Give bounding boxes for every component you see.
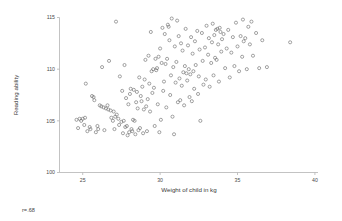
data-point	[212, 74, 215, 77]
correlation-annotation: r=.68	[22, 207, 35, 213]
data-point	[110, 116, 113, 119]
data-point	[125, 97, 128, 100]
data-point	[176, 19, 179, 22]
data-point	[236, 45, 239, 48]
data-point	[140, 100, 143, 103]
data-point	[171, 115, 174, 118]
data-point	[187, 68, 190, 71]
data-point	[241, 55, 244, 58]
data-point	[129, 87, 132, 90]
data-point	[220, 38, 223, 41]
y-axis-group: 100105110115 Reading ability	[12, 14, 60, 175]
data-point	[159, 118, 162, 121]
data-point	[103, 129, 106, 132]
data-point	[225, 47, 228, 50]
x-axis-group: 25303540 Weight of child in kg	[60, 173, 319, 194]
data-point	[145, 130, 148, 133]
data-point	[118, 75, 121, 78]
data-point	[185, 72, 188, 75]
data-point	[173, 45, 176, 48]
data-point	[112, 110, 115, 113]
data-point	[231, 36, 234, 39]
data-point	[217, 43, 220, 46]
data-point	[220, 50, 223, 53]
data-point	[121, 132, 124, 135]
data-point	[289, 41, 292, 44]
data-point	[153, 124, 156, 127]
data-point	[194, 63, 197, 66]
data-point	[193, 40, 196, 43]
data-point	[219, 30, 222, 33]
data-point	[96, 124, 99, 127]
data-point	[148, 82, 151, 85]
data-point	[234, 21, 237, 24]
data-point	[162, 80, 165, 83]
data-point	[198, 48, 201, 51]
data-point	[201, 59, 204, 62]
data-point	[121, 89, 124, 92]
data-point	[205, 24, 208, 27]
data-point	[77, 127, 80, 130]
data-point	[107, 59, 110, 62]
data-point	[261, 39, 264, 42]
data-point	[160, 61, 163, 64]
data-point	[169, 74, 172, 77]
data-point	[188, 96, 191, 99]
data-point	[179, 42, 182, 45]
data-point	[255, 31, 258, 34]
data-point	[210, 61, 213, 64]
data-point	[135, 90, 138, 93]
data-point	[228, 76, 231, 79]
data-point	[114, 20, 117, 23]
data-point	[258, 67, 261, 70]
scatter-plot-canvas: 100105110115 Reading ability 25303540 We…	[0, 0, 342, 221]
data-point	[191, 52, 194, 55]
data-point	[166, 57, 169, 60]
data-point	[217, 80, 220, 83]
data-point	[183, 104, 186, 107]
data-point	[152, 86, 155, 89]
data-point	[136, 107, 139, 110]
data-point	[169, 93, 172, 96]
data-point	[211, 22, 214, 25]
data-point	[247, 25, 250, 28]
data-point	[132, 88, 135, 91]
data-point	[245, 68, 248, 71]
data-point	[142, 108, 145, 111]
data-point	[208, 85, 211, 88]
data-point	[156, 103, 159, 106]
data-point	[239, 35, 242, 38]
data-point	[178, 77, 181, 80]
data-point	[123, 63, 126, 66]
data-point	[86, 130, 89, 133]
data-point	[135, 101, 138, 104]
data-point	[151, 91, 154, 94]
data-point	[161, 26, 164, 29]
data-point	[192, 70, 195, 73]
data-point	[149, 110, 152, 113]
data-point	[84, 82, 87, 85]
data-point	[165, 106, 168, 109]
data-point	[182, 71, 185, 74]
data-point	[128, 131, 131, 134]
data-point	[134, 133, 137, 136]
data-point	[118, 123, 121, 126]
data-point	[126, 134, 129, 137]
data-point	[204, 78, 207, 81]
data-point	[164, 62, 167, 65]
data-point	[154, 57, 157, 60]
data-point	[128, 92, 131, 95]
data-point	[265, 66, 268, 69]
data-point	[193, 87, 196, 90]
data-point	[83, 123, 86, 126]
data-point	[113, 128, 116, 131]
x-axis-title: Weight of child in kg	[161, 186, 217, 193]
data-point	[196, 29, 199, 32]
data-point	[224, 67, 227, 70]
data-point	[186, 44, 189, 47]
data-point	[139, 94, 142, 97]
data-point	[106, 104, 109, 107]
scatter-plot-figure: 100105110115 Reading ability 25303540 We…	[0, 0, 342, 221]
data-point	[142, 132, 145, 135]
data-point	[94, 131, 97, 134]
